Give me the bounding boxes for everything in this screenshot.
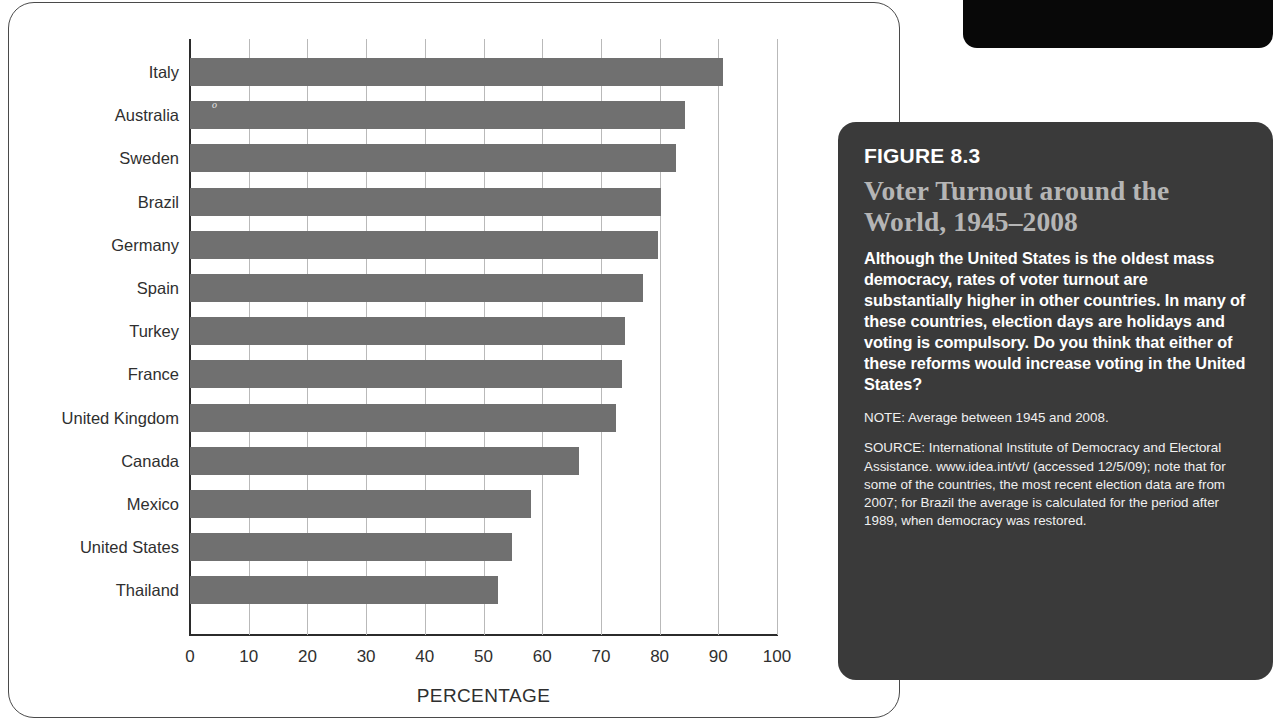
x-tick-label: 20 [298, 648, 317, 665]
figure-note-text: NOTE: Average between 1945 and 2008. [864, 409, 1247, 427]
bar [190, 101, 685, 129]
bar-row [190, 188, 661, 216]
bar-row [190, 274, 643, 302]
gridline [718, 39, 719, 635]
chart-panel: ItalyAustraliaSwedenBrazilGermanySpainTu… [8, 2, 900, 718]
bar-row [190, 404, 616, 432]
category-label: Sweden [119, 150, 179, 167]
category-label: Italy [149, 64, 179, 81]
gridline [777, 39, 778, 635]
bar [190, 533, 512, 561]
x-tick-label: 70 [591, 648, 610, 665]
x-tick-label: 100 [763, 648, 791, 665]
bar [190, 576, 498, 604]
category-label: United States [80, 539, 179, 556]
bar [190, 58, 723, 86]
plot-area: o [190, 39, 777, 645]
x-tick-label: 50 [474, 648, 493, 665]
bar [190, 274, 643, 302]
bar [190, 317, 625, 345]
category-label: France [128, 366, 179, 383]
category-label: Mexico [127, 496, 179, 513]
figure-title: Voter Turnout around the World, 1945–200… [864, 175, 1247, 237]
bar [190, 490, 531, 518]
bar-row [190, 144, 676, 172]
bar-row [190, 360, 622, 388]
bar-row [190, 447, 579, 475]
x-axis-title: PERCENTAGE [190, 685, 777, 707]
x-tick-label: 0 [185, 648, 194, 665]
category-label: Germany [111, 237, 179, 254]
bar [190, 404, 616, 432]
bar [190, 360, 622, 388]
x-tick-label: 10 [239, 648, 258, 665]
x-tick-label: 40 [415, 648, 434, 665]
x-tick-label: 30 [357, 648, 376, 665]
scan-artifact-glyph: o [212, 99, 217, 110]
bar [190, 231, 658, 259]
question-callout-box: people participate in politics? [963, 0, 1273, 48]
category-label: Brazil [138, 194, 179, 211]
figure-body-text: Although the United States is the oldest… [864, 248, 1247, 395]
bar [190, 144, 676, 172]
x-tick-label: 80 [650, 648, 669, 665]
bar-row [190, 317, 625, 345]
bar-row [190, 101, 685, 129]
bar-row [190, 533, 512, 561]
category-label: Canada [121, 453, 179, 470]
category-label: Thailand [116, 582, 179, 599]
bar [190, 188, 661, 216]
bar-row [190, 231, 658, 259]
figure-number: FIGURE 8.3 [864, 144, 1247, 168]
figure-caption-box: FIGURE 8.3 Voter Turnout around the Worl… [838, 122, 1273, 680]
bar-row [190, 576, 498, 604]
category-label: Spain [137, 280, 179, 297]
category-label: United Kingdom [62, 410, 179, 427]
category-label: Australia [115, 107, 179, 124]
bar-row [190, 58, 723, 86]
bar-row [190, 490, 531, 518]
bar [190, 447, 579, 475]
category-label: Turkey [129, 323, 179, 340]
x-axis-tick-labels: 0102030405060708090100 [190, 648, 777, 670]
x-tick-label: 60 [533, 648, 552, 665]
figure-source-text: SOURCE: International Institute of Democ… [864, 439, 1247, 530]
x-tick-label: 90 [709, 648, 728, 665]
